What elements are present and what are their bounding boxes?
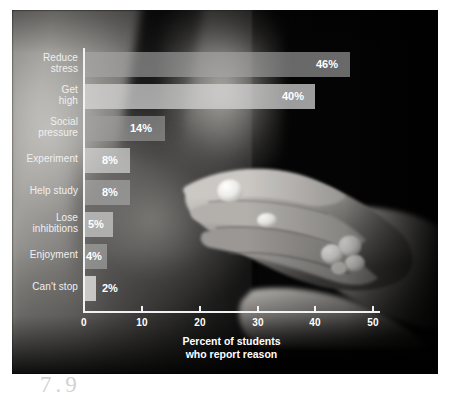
bar-social-pressure [84, 116, 165, 141]
x-tick-20 [199, 306, 201, 312]
x-tick-label-30: 30 [238, 317, 278, 328]
category-label-line1: Lose [12, 212, 78, 224]
category-label-line1: Enjoyment [12, 249, 78, 261]
bar-get-high [84, 84, 315, 109]
page-caption: 7.9 [40, 372, 81, 395]
category-label-line2: inhibitions [12, 223, 78, 235]
x-tick-label-10: 10 [122, 317, 162, 328]
x-tick-label-40: 40 [295, 317, 335, 328]
x-tick-50 [372, 306, 374, 312]
x-axis-line [83, 311, 380, 313]
category-label-line1: Experiment [12, 153, 78, 165]
bar-value-enjoyment: 4% [86, 244, 102, 269]
category-label-line1: Social [12, 116, 78, 128]
bar-chart: 46% 40% 14% 8% 8% 5% 4% 2% Reduce stress… [12, 10, 438, 374]
category-label-line2: high [12, 95, 78, 107]
bar-value-social-pressure: 14% [130, 116, 152, 141]
x-tick-label-20: 20 [180, 317, 220, 328]
x-tick-label-50: 50 [353, 317, 393, 328]
bar-value-help-study: 8% [102, 180, 118, 205]
bar-value-cant-stop: 2% [102, 276, 118, 301]
bar-cant-stop [84, 276, 96, 301]
category-label-lose-inhibitions: Lose inhibitions [12, 212, 78, 224]
x-tick-30 [257, 306, 259, 312]
bar-value-experiment: 8% [102, 148, 118, 173]
x-tick-label-0: 0 [64, 317, 104, 328]
category-label-line2: pressure [12, 127, 78, 139]
x-tick-0 [83, 306, 85, 312]
category-label-social-pressure: Social pressure [12, 116, 78, 128]
x-axis-title-line2: who report reason [83, 348, 380, 361]
bar-value-reduce-stress: 46% [316, 52, 338, 77]
category-label-line2: stress [12, 63, 78, 75]
x-tick-40 [314, 306, 316, 312]
category-label-reduce-stress: Reduce stress [12, 52, 78, 64]
y-axis-line [83, 48, 85, 312]
bar-value-lose-inhibitions: 5% [88, 212, 104, 237]
x-tick-10 [141, 306, 143, 312]
photograph-panel: 46% 40% 14% 8% 8% 5% 4% 2% Reduce stress… [12, 10, 438, 374]
category-label-line1: Can't stop [12, 281, 78, 293]
x-axis-title-line1: Percent of students [83, 335, 380, 348]
bar-reduce-stress [84, 52, 350, 77]
category-label-line1: Reduce [12, 52, 78, 64]
category-label-line1: Help study [12, 185, 78, 197]
x-axis-title: Percent of students who report reason [83, 335, 380, 361]
bar-value-get-high: 40% [282, 84, 304, 109]
category-label-get-high: Get high [12, 84, 78, 96]
category-label-line1: Get [12, 84, 78, 96]
